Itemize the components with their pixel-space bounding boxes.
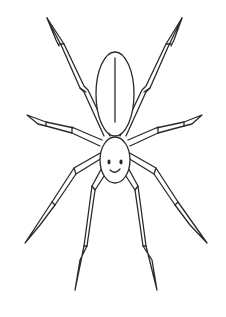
spider-illustration [0, 0, 226, 317]
leg-second-right [128, 115, 202, 146]
spider-drawing [0, 0, 226, 317]
leg-fourth-right [122, 164, 157, 290]
leg-second-left [27, 115, 102, 146]
right-eye-icon [119, 160, 122, 165]
spider-head [100, 137, 130, 183]
left-eye-icon [107, 160, 110, 165]
leg-fourth-left [75, 164, 108, 290]
